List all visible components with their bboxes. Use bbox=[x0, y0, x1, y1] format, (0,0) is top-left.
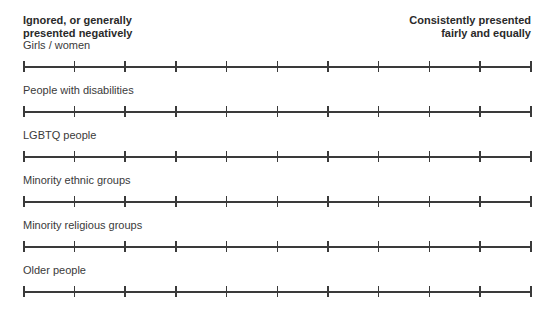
left-anchor-line-1: Ignored, or generally bbox=[23, 14, 132, 27]
scale-row-label: People with disabilities bbox=[23, 84, 134, 97]
rating-scale[interactable] bbox=[23, 151, 531, 163]
scale-row-label: LGBTQ people bbox=[23, 129, 96, 142]
scale-tick-1[interactable] bbox=[23, 151, 25, 162]
scale-tick-5[interactable] bbox=[226, 196, 228, 207]
scale-tick-8[interactable] bbox=[378, 61, 380, 72]
scale-tick-11[interactable] bbox=[530, 61, 532, 72]
scale-row-label: Minority ethnic groups bbox=[23, 174, 131, 187]
scale-tick-11[interactable] bbox=[530, 196, 532, 207]
scale-tick-7[interactable] bbox=[327, 241, 329, 252]
scale-tick-5[interactable] bbox=[226, 241, 228, 252]
scale-tick-3[interactable] bbox=[124, 61, 126, 72]
scale-tick-6[interactable] bbox=[277, 61, 279, 72]
scale-tick-4[interactable] bbox=[175, 196, 177, 207]
scale-tick-7[interactable] bbox=[327, 106, 329, 117]
scale-tick-1[interactable] bbox=[23, 286, 25, 297]
scale-tick-8[interactable] bbox=[378, 151, 380, 162]
rating-scale[interactable] bbox=[23, 106, 531, 118]
scale-row-minority-ethnic-groups: Minority ethnic groups bbox=[0, 174, 556, 214]
scale-tick-9[interactable] bbox=[429, 61, 431, 72]
scale-tick-2[interactable] bbox=[74, 241, 76, 252]
scale-tick-6[interactable] bbox=[277, 241, 279, 252]
scale-tick-6[interactable] bbox=[277, 196, 279, 207]
scale-tick-8[interactable] bbox=[378, 196, 380, 207]
scale-tick-6[interactable] bbox=[277, 286, 279, 297]
right-anchor-line-1: Consistently presented bbox=[409, 14, 531, 27]
scale-tick-11[interactable] bbox=[530, 151, 532, 162]
scale-tick-2[interactable] bbox=[74, 106, 76, 117]
scale-tick-5[interactable] bbox=[226, 106, 228, 117]
scale-tick-1[interactable] bbox=[23, 61, 25, 72]
scale-tick-7[interactable] bbox=[327, 196, 329, 207]
rating-scale[interactable] bbox=[23, 286, 531, 298]
scale-tick-9[interactable] bbox=[429, 241, 431, 252]
scale-tick-5[interactable] bbox=[226, 286, 228, 297]
scale-tick-11[interactable] bbox=[530, 241, 532, 252]
scale-tick-4[interactable] bbox=[175, 151, 177, 162]
scale-tick-9[interactable] bbox=[429, 151, 431, 162]
scale-tick-3[interactable] bbox=[124, 286, 126, 297]
scale-row-lgbtq-people: LGBTQ people bbox=[0, 129, 556, 169]
scale-tick-10[interactable] bbox=[479, 241, 481, 252]
scale-tick-2[interactable] bbox=[74, 61, 76, 72]
scale-tick-8[interactable] bbox=[378, 106, 380, 117]
rating-scale[interactable] bbox=[23, 241, 531, 253]
scale-tick-7[interactable] bbox=[327, 151, 329, 162]
scale-tick-10[interactable] bbox=[479, 151, 481, 162]
scale-tick-7[interactable] bbox=[327, 286, 329, 297]
scale-tick-2[interactable] bbox=[74, 151, 76, 162]
scale-tick-2[interactable] bbox=[74, 286, 76, 297]
scale-tick-10[interactable] bbox=[479, 286, 481, 297]
scale-tick-1[interactable] bbox=[23, 106, 25, 117]
scale-tick-7[interactable] bbox=[327, 61, 329, 72]
scale-row-label: Girls / women bbox=[23, 39, 90, 52]
scale-row-minority-religious-groups: Minority religious groups bbox=[0, 219, 556, 259]
scale-tick-5[interactable] bbox=[226, 151, 228, 162]
scale-tick-11[interactable] bbox=[530, 106, 532, 117]
scale-tick-9[interactable] bbox=[429, 286, 431, 297]
scale-tick-8[interactable] bbox=[378, 241, 380, 252]
scale-tick-10[interactable] bbox=[479, 106, 481, 117]
scale-tick-5[interactable] bbox=[226, 61, 228, 72]
scale-tick-6[interactable] bbox=[277, 151, 279, 162]
scale-tick-9[interactable] bbox=[429, 196, 431, 207]
scale-tick-1[interactable] bbox=[23, 196, 25, 207]
scale-tick-6[interactable] bbox=[277, 106, 279, 117]
scale-tick-3[interactable] bbox=[124, 151, 126, 162]
scale-row-older-people: Older people bbox=[0, 264, 556, 304]
scale-tick-8[interactable] bbox=[378, 286, 380, 297]
scale-tick-10[interactable] bbox=[479, 61, 481, 72]
scale-tick-4[interactable] bbox=[175, 286, 177, 297]
rating-scale[interactable] bbox=[23, 196, 531, 208]
scale-row-label: Older people bbox=[23, 264, 86, 277]
scale-tick-3[interactable] bbox=[124, 106, 126, 117]
scale-tick-1[interactable] bbox=[23, 241, 25, 252]
scale-tick-2[interactable] bbox=[74, 196, 76, 207]
rating-scale[interactable] bbox=[23, 61, 531, 73]
scale-tick-4[interactable] bbox=[175, 106, 177, 117]
scale-tick-4[interactable] bbox=[175, 241, 177, 252]
scale-tick-3[interactable] bbox=[124, 196, 126, 207]
scale-tick-10[interactable] bbox=[479, 196, 481, 207]
scale-tick-3[interactable] bbox=[124, 241, 126, 252]
scale-row-people-with-disabilities: People with disabilities bbox=[0, 84, 556, 124]
scale-row-label: Minority religious groups bbox=[23, 219, 142, 232]
scale-tick-11[interactable] bbox=[530, 286, 532, 297]
scale-tick-4[interactable] bbox=[175, 61, 177, 72]
scale-tick-9[interactable] bbox=[429, 106, 431, 117]
scale-row-girls-women: Girls / women bbox=[0, 39, 556, 79]
left-anchor-label: Ignored, or generally presented negative… bbox=[23, 14, 132, 40]
right-anchor-label: Consistently presented fairly and equall… bbox=[409, 14, 531, 40]
